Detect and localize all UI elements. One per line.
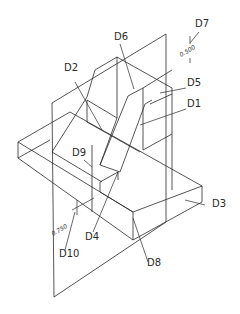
isometric-drawing: D1 D2 D3 D4 D5 D6 D7 D8 D9 D10 0.500 0.7… xyxy=(0,0,240,314)
label-d4: D4 xyxy=(85,231,99,242)
leader-d9 xyxy=(84,160,92,167)
leader-d6 xyxy=(120,44,134,89)
leader-d8 xyxy=(133,218,148,262)
label-d10: D10 xyxy=(59,248,79,259)
dimension-0500: 0.500 xyxy=(178,43,197,58)
label-d8: D8 xyxy=(147,257,161,268)
dimension-0750: 0.750 xyxy=(50,222,69,237)
leader-d7 xyxy=(190,32,199,43)
upper-body xyxy=(52,57,172,212)
label-d7: D7 xyxy=(195,18,209,29)
label-d1: D1 xyxy=(187,98,201,109)
label-d9: D9 xyxy=(72,147,86,158)
leader-d1 xyxy=(140,109,186,125)
label-d2: D2 xyxy=(64,62,78,73)
leader-d4 xyxy=(93,172,118,232)
label-d6: D6 xyxy=(114,31,128,42)
leader-d10 xyxy=(65,212,75,250)
label-d5: D5 xyxy=(187,77,201,88)
label-d3: D3 xyxy=(212,198,226,209)
leader-d5 xyxy=(160,88,186,93)
